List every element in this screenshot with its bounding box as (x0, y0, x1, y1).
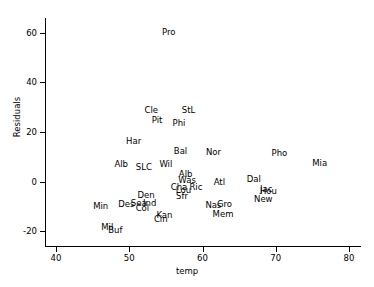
data-point-label: Des (118, 200, 134, 209)
x-axis-title: temp (0, 266, 374, 276)
data-point-label: Ric (189, 182, 202, 191)
data-point-label: Wil (159, 160, 172, 169)
data-point-label: Gro (217, 200, 232, 209)
y-tick-label: -20 (0, 227, 37, 236)
data-point-label: Min (93, 202, 108, 211)
data-point-label: Alb (114, 160, 128, 169)
x-tick-label: 80 (329, 254, 369, 263)
data-point-label: New (254, 195, 273, 204)
y-tick-label: 0 (0, 178, 37, 187)
x-tick-mark (276, 247, 277, 252)
x-tick-mark (203, 247, 204, 252)
x-tick-label: 70 (256, 254, 296, 263)
x-tick-mark (349, 247, 350, 252)
y-axis-spine (45, 18, 46, 247)
y-tick-mark (40, 33, 45, 34)
y-tick-mark (40, 231, 45, 232)
data-point-label: Pro (162, 27, 176, 36)
data-point-label: Col (136, 203, 150, 212)
data-point-label: Phi (173, 119, 186, 128)
data-point-label: Cle (144, 105, 158, 114)
data-point-label: Mia (312, 159, 327, 168)
plot-area (45, 18, 360, 246)
data-point-label: StL (182, 105, 195, 114)
y-tick-mark (40, 132, 45, 133)
data-point-label: Har (126, 136, 141, 145)
data-point-label: Pho (272, 149, 288, 158)
x-tick-mark (56, 247, 57, 252)
data-point-label: Atl (214, 177, 225, 186)
data-point-label: Buf (108, 226, 122, 235)
y-tick-mark (40, 182, 45, 183)
x-tick-mark (129, 247, 130, 252)
residuals-scatter-chart: -200204060 4050607080 ProCleStLPitPhiHar… (0, 0, 374, 287)
x-tick-label: 50 (109, 254, 149, 263)
y-tick-label: 60 (0, 29, 37, 38)
data-point-label: Bal (174, 146, 187, 155)
data-point-label: Mem (213, 210, 234, 219)
data-point-label: Cin (154, 214, 168, 223)
data-point-label: Sfr (176, 192, 188, 201)
data-point-label: Dal (247, 175, 261, 184)
y-axis-title: Residuals (12, 57, 22, 177)
y-tick-mark (40, 82, 45, 83)
data-point-label: Pit (152, 115, 163, 124)
data-point-label: SLC (136, 162, 152, 171)
data-point-label: Nor (206, 148, 221, 157)
x-tick-label: 40 (36, 254, 76, 263)
x-tick-label: 60 (183, 254, 223, 263)
